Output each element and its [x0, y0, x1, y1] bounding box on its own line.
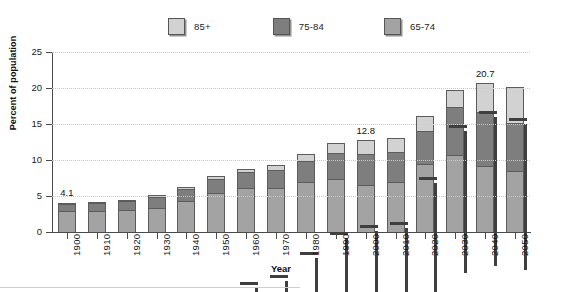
x-tick: [425, 233, 426, 239]
y-tick: [46, 232, 52, 233]
bar-segment-65-74: [267, 188, 285, 232]
x-tick: [186, 233, 187, 239]
bar-value-label: 20.7: [465, 68, 505, 79]
chart-container: 85+ 75-84 65-74 Percent of population 05…: [0, 0, 562, 292]
bar-segment-75-84: [476, 112, 494, 167]
x-tick-label: 2040: [489, 234, 500, 256]
x-tick: [157, 233, 158, 239]
bar-top-shadow: [360, 225, 378, 228]
bar-column[interactable]: [476, 83, 494, 232]
bar-segment-75-84: [327, 153, 345, 180]
legend-label-85plus: 85+: [194, 21, 211, 32]
bar-column[interactable]: [297, 154, 315, 232]
chart-legend: 85+ 75-84 65-74: [140, 14, 440, 38]
x-tick: [246, 233, 247, 239]
x-tick-label: 1980: [310, 234, 321, 256]
bar-top-shadow: [509, 118, 527, 121]
bar-column[interactable]: [416, 116, 434, 232]
legend-swatch-75-84: [273, 18, 290, 35]
legend-swatch-85plus: [168, 18, 185, 35]
y-tick: [46, 160, 52, 161]
bar-segment-65-74: [88, 211, 106, 232]
bar-segment-75-84: [177, 189, 195, 201]
bar-segment-65-74: [506, 171, 524, 232]
bar-segment-65-74: [446, 155, 464, 232]
x-tick-label: 1910: [101, 234, 112, 256]
x-tick-label: 2050: [519, 234, 530, 256]
bar-segment-65-74: [118, 210, 136, 232]
x-tick-label: 2000: [370, 234, 381, 256]
x-tick: [396, 233, 397, 239]
gridline: [52, 124, 530, 125]
x-tick: [515, 233, 516, 239]
y-tick: [46, 52, 52, 53]
bar-top-shadow: [449, 125, 467, 128]
bar-top-shadow: [479, 111, 497, 114]
x-tick-label: 1900: [71, 234, 82, 256]
bar-segment-75-84: [118, 201, 136, 210]
x-tick: [336, 233, 337, 239]
x-tick-label: 2010: [400, 234, 411, 256]
bar-shadow: [255, 288, 258, 292]
legend-label-75-84: 75-84: [299, 21, 324, 32]
x-tick: [306, 233, 307, 239]
bar-column[interactable]: [177, 187, 195, 232]
gridline: [52, 52, 530, 53]
bar-column[interactable]: [58, 203, 76, 233]
gridline: [52, 160, 530, 161]
bar-column[interactable]: [148, 195, 166, 232]
bar-segment-75-84: [446, 107, 464, 155]
y-tick-label: 25: [0, 46, 42, 57]
x-tick-label: 1940: [190, 234, 201, 256]
legend-item-65-74[interactable]: 65-74: [384, 18, 435, 35]
x-tick-label: 1960: [250, 234, 261, 256]
bar-column[interactable]: [446, 90, 464, 232]
bar-value-label: 4.1: [47, 187, 87, 198]
x-tick: [216, 233, 217, 239]
bar-column[interactable]: [327, 143, 345, 232]
bar-segment-65-74: [297, 182, 315, 232]
y-tick-label: 10: [0, 154, 42, 165]
bar-segment-65-74: [416, 164, 434, 232]
x-tick: [455, 233, 456, 239]
bar-segment-65-74: [207, 193, 225, 232]
bar-column[interactable]: [237, 169, 255, 232]
legend-label-65-74: 65-74: [410, 21, 435, 32]
bar-column[interactable]: [118, 200, 136, 232]
legend-item-85plus[interactable]: 85+: [168, 18, 211, 35]
bar-column[interactable]: [387, 138, 405, 232]
legend-item-75-84[interactable]: 75-84: [273, 18, 324, 35]
bar-column[interactable]: [357, 140, 375, 232]
legend-swatch-65-74: [384, 18, 401, 35]
bar-segment-75-84: [506, 123, 524, 171]
bar-segment-75-84: [267, 170, 285, 188]
bar-segment-75-84: [148, 197, 166, 207]
x-tick: [97, 233, 98, 239]
x-tick: [67, 233, 68, 239]
bar-segment-65-74: [148, 208, 166, 232]
x-tick-label: 1970: [280, 234, 291, 256]
y-tick-label: 0: [0, 226, 42, 237]
gridline: [52, 196, 530, 197]
bar-top-shadow: [240, 282, 258, 285]
y-tick: [46, 124, 52, 125]
plot-area: [52, 52, 530, 232]
bar-column[interactable]: [88, 202, 106, 232]
bar-top-shadow: [270, 275, 288, 278]
x-tick-label: 2030: [459, 234, 470, 256]
bar-segment-65-74: [327, 179, 345, 232]
bar-segment-85plus: [387, 138, 405, 152]
bar-segment-85plus: [327, 143, 345, 152]
bar-segment-75-84: [88, 203, 106, 211]
bar-segment-75-84: [58, 204, 76, 211]
scan-artifact-line: [0, 287, 300, 288]
x-axis-title: Year: [0, 263, 562, 274]
bar-segment-65-74: [177, 201, 195, 232]
bar-segment-65-74: [476, 166, 494, 232]
x-tick: [276, 233, 277, 239]
gridline: [52, 88, 530, 89]
bar-column[interactable]: [267, 165, 285, 232]
x-tick-label: 2020: [429, 234, 440, 256]
bar-segment-75-84: [297, 161, 315, 183]
bar-column[interactable]: [207, 176, 225, 232]
